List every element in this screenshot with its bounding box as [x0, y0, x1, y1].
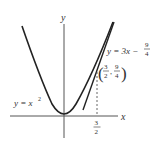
diagram-canvas: x y 3 2 y = x 2 y = 3x − 9 4 ( 3 2 , 9 4… [0, 0, 155, 142]
parabola-exponent: 2 [38, 96, 41, 102]
point-x-denominator: 2 [104, 72, 108, 80]
tangent-frac-numerator: 9 [145, 41, 149, 49]
tangent-frac-denominator: 4 [145, 50, 149, 58]
point-y-denominator: 4 [115, 72, 119, 80]
parabola-label: y = x 2 [13, 96, 41, 108]
point-close-paren: ) [121, 64, 127, 83]
point-comma: , [110, 67, 112, 76]
y-axis-label: y [60, 12, 66, 23]
point-y-numerator: 9 [115, 63, 119, 71]
x-axis-label: x [120, 111, 126, 122]
tangent-point-label: ( 3 2 , 9 4 ) [98, 63, 127, 83]
x-tick-label: 3 2 [94, 119, 101, 136]
tick-numerator: 3 [95, 119, 99, 127]
point-x-numerator: 3 [104, 63, 108, 71]
tangent-label: y = 3x − 9 4 [106, 41, 150, 58]
tick-denominator: 2 [95, 128, 99, 136]
tangent-equation: y = 3x − [106, 46, 138, 56]
parabola-equation: y = x [13, 98, 33, 108]
